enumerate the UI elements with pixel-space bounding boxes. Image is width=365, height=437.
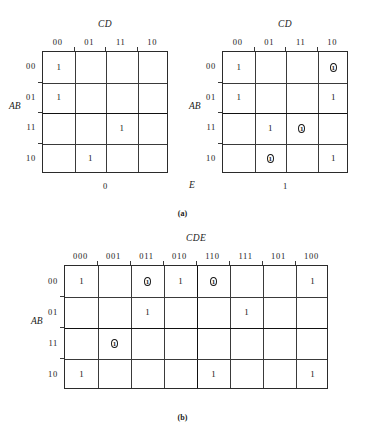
kmap-col-tick bbox=[295, 261, 296, 265]
kmap-cell bbox=[131, 359, 164, 390]
kmap-cell: 1 bbox=[255, 113, 287, 144]
kmap-cell-value-circled: 1 bbox=[144, 277, 151, 286]
kmap-row-header: 00 bbox=[40, 276, 58, 286]
kmap-cell: 1 bbox=[65, 359, 98, 390]
kmap-col-header: 001 bbox=[97, 251, 130, 261]
kmap-cell-value: 1 bbox=[237, 63, 242, 72]
kmap-cell bbox=[263, 359, 296, 390]
kmap-cell: 1 bbox=[197, 266, 230, 297]
kmap-col-tick bbox=[163, 261, 164, 265]
kmap-cell-value: 1 bbox=[57, 63, 62, 72]
kmap-cell bbox=[75, 52, 107, 83]
kmap-cell bbox=[230, 359, 263, 390]
figure-caption-a: (a) bbox=[0, 209, 365, 218]
kmap-cell-value-circled: 1 bbox=[330, 63, 337, 72]
kmap-cell-value-circled: 1 bbox=[111, 339, 118, 348]
kmap-row-tick bbox=[218, 112, 222, 113]
kmap-cell bbox=[286, 52, 318, 83]
kmap-cell: 1 bbox=[286, 113, 318, 144]
kmap-a-right-e-label: E bbox=[189, 180, 195, 190]
kmap-a-left-top-variable: CD bbox=[85, 19, 125, 29]
kmap-col-header: 10 bbox=[317, 37, 349, 47]
kmap-cell bbox=[296, 328, 329, 359]
kmap-cell-value-circled: 1 bbox=[298, 124, 305, 133]
kmap-cell bbox=[197, 297, 230, 328]
kmap-col-header: 100 bbox=[295, 251, 328, 261]
kmap-cell: 1 bbox=[106, 113, 138, 144]
kmap-cell-value: 1 bbox=[79, 277, 84, 286]
kmap-cell: 1 bbox=[98, 328, 131, 359]
kmap-a-right-side-variable: AB bbox=[189, 101, 201, 111]
kmap-col-header: 000 bbox=[64, 251, 97, 261]
kmap-cell: 1 bbox=[296, 266, 329, 297]
kmap-b-side-variable: AB bbox=[31, 316, 43, 326]
kmap-cell-value: 1 bbox=[145, 308, 150, 317]
kmap-col-tick bbox=[196, 261, 197, 265]
kmap-cell bbox=[75, 113, 107, 144]
kmap-cell bbox=[286, 144, 318, 175]
kmap-col-header: 01 bbox=[254, 37, 286, 47]
kmap-cell bbox=[230, 266, 263, 297]
kmap-cell-value: 1 bbox=[79, 370, 84, 379]
kmap-a-left-side-variable: AB bbox=[9, 101, 21, 111]
kmap-row-header: 10 bbox=[18, 153, 36, 163]
kmap-cell bbox=[223, 113, 255, 144]
kmap-cell: 1 bbox=[75, 144, 107, 175]
kmap-cell-value-circled: 1 bbox=[210, 277, 217, 286]
kmap-col-tick bbox=[285, 47, 286, 51]
kmap-cell bbox=[197, 328, 230, 359]
kmap-cell: 1 bbox=[296, 359, 329, 390]
kmap-row-header: 10 bbox=[198, 153, 216, 163]
kmap-cell-value-circled: 1 bbox=[267, 154, 274, 163]
kmap-a-right-grid: 11111111 bbox=[222, 51, 348, 173]
kmap-row-tick bbox=[60, 358, 64, 359]
kmap-row-tick bbox=[38, 82, 42, 83]
kmap-cell bbox=[286, 83, 318, 114]
kmap-cell: 1 bbox=[43, 52, 75, 83]
kmap-cell bbox=[106, 83, 138, 114]
kmap-col-header: 11 bbox=[105, 37, 137, 47]
kmap-cell-value: 1 bbox=[331, 93, 336, 102]
kmap-cell bbox=[138, 52, 170, 83]
kmap-cell bbox=[255, 52, 287, 83]
kmap-a-right-top-variable: CD bbox=[265, 19, 305, 29]
kmap-cell: 1 bbox=[131, 266, 164, 297]
kmap-cell-value: 1 bbox=[268, 124, 273, 133]
kmap-cell bbox=[43, 113, 75, 144]
kmap-cell: 1 bbox=[318, 83, 350, 114]
kmap-cell bbox=[43, 144, 75, 175]
kmap-cell bbox=[164, 328, 197, 359]
kmap-cell bbox=[223, 144, 255, 175]
kmap-col-tick bbox=[317, 47, 318, 51]
kmap-cell-value: 1 bbox=[211, 370, 216, 379]
kmap-b-top-variable: CDE bbox=[176, 233, 216, 243]
kmap-cell: 1 bbox=[230, 297, 263, 328]
kmap-cell: 1 bbox=[223, 52, 255, 83]
kmap-a-right-foot-label: 1 bbox=[222, 181, 348, 191]
kmap-row-tick bbox=[60, 296, 64, 297]
kmap-cell bbox=[106, 52, 138, 83]
kmap-cell bbox=[98, 359, 131, 390]
kmap-col-tick bbox=[105, 47, 106, 51]
kmap-col-header: 00 bbox=[42, 37, 74, 47]
kmap-col-header: 101 bbox=[262, 251, 295, 261]
kmap-row-header: 00 bbox=[198, 61, 216, 71]
kmap-col-header: 10 bbox=[137, 37, 169, 47]
kmap-cell-value: 1 bbox=[310, 370, 315, 379]
kmap-cell: 1 bbox=[223, 83, 255, 114]
kmap-col-header: 011 bbox=[130, 251, 163, 261]
kmap-cell bbox=[164, 359, 197, 390]
kmap-cell-value: 1 bbox=[120, 124, 125, 133]
kmap-cell bbox=[263, 328, 296, 359]
kmap-col-tick bbox=[74, 47, 75, 51]
kmap-cell bbox=[296, 297, 329, 328]
kmap-row-tick bbox=[38, 112, 42, 113]
figure-caption-b: (b) bbox=[0, 413, 365, 422]
kmap-cell: 1 bbox=[164, 266, 197, 297]
kmap-row-header: 11 bbox=[198, 122, 216, 132]
kmap-row-tick bbox=[38, 143, 42, 144]
kmap-col-tick bbox=[137, 47, 138, 51]
kmap-row-tick bbox=[60, 327, 64, 328]
kmap-cell bbox=[263, 266, 296, 297]
kmap-cell bbox=[106, 144, 138, 175]
